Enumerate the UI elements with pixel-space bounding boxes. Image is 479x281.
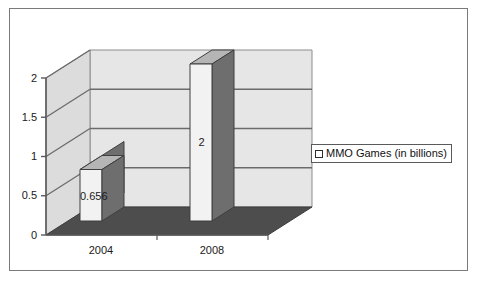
chart-container: 2 1.5 1 0.5 0 2004 2008 0.656 2 MMO Game… [0, 0, 479, 281]
bar-2008-right-face [212, 50, 234, 221]
y-axis-label-0: 0 [20, 230, 37, 241]
chart-legend[interactable]: MMO Games (in billions) [311, 144, 452, 163]
legend-square-marker-icon [315, 150, 323, 158]
legend-entry-label: MMO Games (in billions) [326, 148, 447, 159]
y-axis-label-0.5: 0.5 [14, 190, 37, 201]
x-axis-label-2004: 2004 [73, 245, 129, 256]
y-axis-label-1.5: 1.5 [14, 112, 37, 123]
chart-plot-area [0, 0, 479, 281]
y-axis-label-1: 1 [20, 151, 37, 162]
bar-value-label-2004: 0.656 [80, 191, 103, 202]
bar-value-label-2008: 2 [190, 137, 213, 148]
y-axis-label-2: 2 [20, 73, 37, 84]
x-axis-label-2008: 2008 [184, 245, 240, 256]
